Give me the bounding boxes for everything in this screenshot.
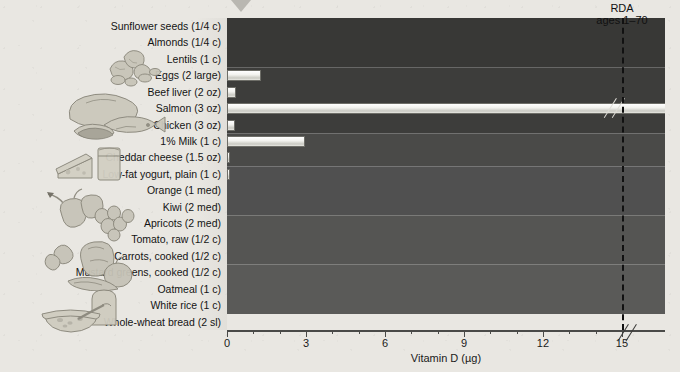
- meat-fish-icon: [56, 89, 166, 145]
- x-tick-minor: [253, 330, 254, 334]
- bar-row: [227, 100, 665, 117]
- x-axis-line: [227, 330, 665, 332]
- bar: [227, 87, 236, 98]
- bar-row: [227, 264, 665, 281]
- bar: [227, 103, 665, 114]
- x-tick-major: [385, 330, 386, 337]
- rda-label: RDA ages 1–70: [596, 2, 647, 26]
- bar-row: [227, 67, 665, 84]
- bar-row: [227, 314, 665, 331]
- bar-row: [227, 149, 665, 166]
- x-tick-major: [306, 330, 307, 337]
- bar-row: [227, 281, 665, 298]
- x-axis-title: Vitamin D (µg): [227, 352, 665, 364]
- x-tick-minor: [438, 330, 439, 334]
- bar-row: [227, 34, 665, 51]
- x-tick-minor: [569, 330, 570, 334]
- bar-row: [227, 117, 665, 134]
- axis-break-icon: [628, 324, 654, 342]
- x-tick-minor: [517, 330, 518, 334]
- bar-row: [227, 84, 665, 101]
- x-tick-minor: [596, 330, 597, 334]
- rda-label-line1: RDA: [610, 2, 633, 14]
- x-tick-minor: [332, 330, 333, 334]
- fruit-icon: [44, 186, 144, 242]
- bar-row: [227, 133, 665, 150]
- x-tick-major: [227, 330, 228, 337]
- bar-row: [227, 297, 665, 314]
- bar: [227, 152, 230, 163]
- cheese-milk-icon: [52, 140, 130, 186]
- bar-row: [227, 248, 665, 265]
- nuts-icon: [98, 47, 170, 87]
- plot-area: [227, 18, 665, 330]
- x-tick-major: [543, 330, 544, 337]
- x-tick-label: 9: [461, 337, 467, 349]
- x-tick-minor: [359, 330, 360, 334]
- x-tick-label: 3: [303, 337, 309, 349]
- bar: [227, 120, 235, 131]
- x-tick-minor: [490, 330, 491, 334]
- bar-row: [227, 199, 665, 216]
- bar: [227, 70, 261, 81]
- x-tick-label: 6: [382, 337, 388, 349]
- bar-row: [227, 182, 665, 199]
- x-tick-minor: [280, 330, 281, 334]
- top-arrow-ornament: [231, 0, 251, 12]
- x-tick-minor: [411, 330, 412, 334]
- bar: [227, 136, 305, 147]
- bread-oatmeal-icon: [34, 287, 140, 337]
- x-tick-major: [464, 330, 465, 337]
- vegetables-icon: [38, 235, 146, 291]
- bar-row: [227, 166, 665, 183]
- x-tick-label: 12: [537, 337, 549, 349]
- bar-row: [227, 215, 665, 232]
- bar: [227, 169, 230, 180]
- bar-row: [227, 51, 665, 68]
- rda-label-line2: ages 1–70: [596, 14, 647, 26]
- rda-reference-line: [622, 18, 624, 330]
- category-label: Sunflower seeds (1/4 c): [1, 18, 221, 35]
- bar-row: [227, 231, 665, 248]
- x-tick-label: 0: [224, 337, 230, 349]
